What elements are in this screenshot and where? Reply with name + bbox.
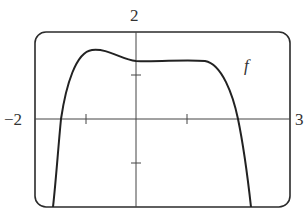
curve-label-f: f	[244, 56, 251, 75]
graph: 2 −2 3 f	[0, 0, 307, 212]
y-max-label: 2	[130, 6, 139, 25]
x-min-label: −2	[4, 110, 22, 129]
x-max-label: 3	[295, 110, 304, 129]
curve-f	[53, 50, 251, 207]
